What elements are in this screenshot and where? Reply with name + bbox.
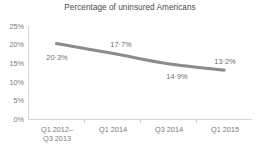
x-axis-ticks	[85, 120, 197, 124]
data-label-q1-2012-q3-2013: 20·3%	[35, 54, 79, 61]
y-tick-label-20: 20%	[0, 41, 24, 48]
data-label-q3-2014: 14·9%	[155, 73, 199, 80]
chart-container: Percentage of uninsured Americans 25% 20…	[0, 0, 260, 153]
data-label-q1-2014: 17·7%	[99, 41, 143, 48]
y-tick-label-5: 5%	[0, 97, 24, 104]
data-label-q1-2015: 13·2%	[203, 58, 247, 65]
x-tick-label-q3-2014: Q3 2014	[141, 126, 197, 135]
x-tick-label-q1-2014: Q1 2014	[85, 126, 141, 135]
y-tick-label-15: 15%	[0, 60, 24, 67]
x-tick-label-q1-2015: Q1 2015	[197, 126, 253, 135]
x-tick-label-q1-2012-q3-2013: Q1 2012– Q3 2013	[29, 126, 85, 143]
y-tick-label-0: 0%	[0, 116, 24, 123]
y-tick-label-25: 25%	[0, 23, 24, 30]
y-tick-label-10: 10%	[0, 79, 24, 86]
